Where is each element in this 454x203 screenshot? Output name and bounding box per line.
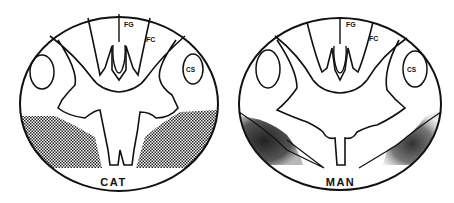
svg-text:FC: FC (146, 36, 155, 43)
cat-caption: CAT (0, 176, 227, 188)
man-spinal-cord-section: FG FC CS (227, 0, 454, 203)
svg-text:CS: CS (407, 66, 417, 73)
svg-text:FG: FG (124, 21, 134, 28)
svg-text:CS: CS (186, 66, 196, 73)
man-panel: FG FC CS MAN (227, 0, 454, 203)
svg-text:FG: FG (346, 21, 356, 28)
cat-panel: FG FC CS CAT (0, 0, 227, 203)
cat-spinal-cord-section: FG FC CS (0, 0, 227, 203)
man-shaded-region (239, 112, 441, 165)
man-caption: MAN (227, 176, 454, 188)
svg-text:FC: FC (369, 35, 378, 42)
